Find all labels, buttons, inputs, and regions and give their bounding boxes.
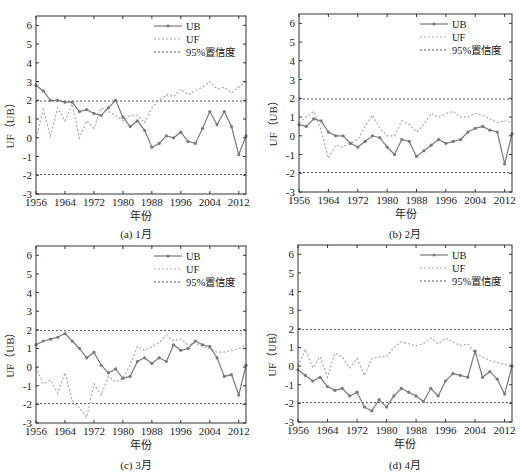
ub-marker [444, 142, 447, 145]
x-tick-label: 1972 [347, 194, 369, 206]
ub-marker [400, 387, 403, 390]
y-tick-label: 1 [27, 342, 33, 354]
ub-marker [85, 108, 88, 111]
y-tick-label: -1 [286, 149, 295, 161]
chart-panel-d: -3-2-10123456195619641972198019881996200… [266, 245, 516, 450]
y-tick-label: 4 [27, 287, 33, 299]
ub-marker [481, 376, 484, 379]
y-tick-label: -2 [286, 167, 295, 179]
uf-line [299, 111, 512, 158]
ub-marker [92, 351, 95, 354]
ub-marker [42, 89, 45, 92]
chart-panel-b: -3-2-10123456195619641972198019881996200… [267, 14, 516, 220]
x-tick-label: 2012 [494, 424, 516, 436]
ub-marker [92, 112, 95, 115]
y-tick-label: 4 [27, 57, 33, 69]
x-tick-label: 2012 [494, 194, 516, 206]
ub-marker [422, 400, 425, 403]
y-tick-label: 5 [289, 267, 295, 279]
caption-d: (d) 4月 [345, 456, 465, 472]
chart-panel-a: -3-2-10123456195619641972198019881996200… [4, 16, 250, 222]
y-tick-label: 6 [289, 248, 295, 260]
x-tick-label: 2012 [228, 196, 250, 208]
ub-marker [341, 134, 344, 137]
y-axis-label: UF（UB） [266, 326, 278, 377]
ub-marker [348, 394, 351, 397]
y-tick-label: 2 [290, 92, 296, 104]
legend-label: UB [186, 251, 201, 262]
x-tick-label: 1980 [376, 424, 399, 436]
x-tick-label: 1956 [25, 425, 48, 437]
y-tick-label: 6 [27, 19, 33, 31]
y-tick-label: 5 [27, 38, 33, 50]
ub-marker [430, 144, 433, 147]
ub-marker [150, 146, 153, 149]
ub-marker [311, 379, 314, 382]
legend-label: 95%置信度 [186, 276, 236, 288]
x-tick-label: 2004 [199, 196, 222, 208]
ub-marker [466, 130, 469, 133]
ub-marker [129, 125, 132, 128]
ub-marker [223, 375, 226, 378]
chart-panel-c: -3-2-10123456195619641972198019881996200… [4, 246, 250, 451]
ub-marker [121, 377, 124, 380]
ub-marker [194, 339, 197, 342]
ub-marker [408, 140, 411, 143]
y-tick-label: -1 [23, 151, 32, 163]
ub-marker [385, 405, 388, 408]
ub-marker [223, 110, 226, 113]
ub-marker [71, 339, 74, 342]
ub-marker [129, 375, 132, 378]
x-tick-label: 1972 [83, 196, 105, 208]
ub-marker [100, 364, 103, 367]
ub-marker [349, 142, 352, 145]
ub-marker [136, 360, 139, 363]
y-tick-label: 3 [27, 305, 33, 317]
axes-frame [36, 246, 246, 423]
y-tick-label: 6 [27, 249, 33, 261]
x-axis-label: 年份 [130, 209, 152, 222]
ub-marker [422, 149, 425, 152]
ub-marker [363, 405, 366, 408]
caption-b: (b) 2月 [345, 225, 465, 241]
y-tick-label: -2 [23, 398, 32, 410]
ub-marker [378, 136, 381, 139]
x-tick-label: 1980 [112, 196, 135, 208]
x-tick-label: 1972 [83, 425, 105, 437]
ub-marker [201, 343, 204, 346]
ub-marker [186, 140, 189, 143]
y-tick-label: 4 [289, 286, 295, 298]
y-tick-label: 2 [27, 94, 33, 106]
y-tick-label: 3 [27, 76, 33, 88]
x-tick-label: 1972 [346, 424, 368, 436]
ub-marker [237, 393, 240, 396]
y-tick-label: -2 [285, 397, 294, 409]
x-tick-label: 1964 [54, 425, 77, 437]
legend-ub-marker [166, 24, 169, 27]
axes-frame [298, 245, 512, 422]
ub-marker [78, 347, 81, 350]
ub-marker [158, 356, 161, 359]
y-tick-label: 0 [27, 132, 33, 144]
y-tick-label: 3 [290, 74, 296, 86]
ub-marker [451, 372, 454, 375]
ub-marker [414, 394, 417, 397]
y-tick-label: 5 [27, 268, 33, 280]
ub-marker [136, 119, 139, 122]
y-tick-label: 0 [27, 361, 33, 373]
ub-marker [459, 374, 462, 377]
ub-marker [186, 347, 189, 350]
legend-ub-marker [166, 254, 169, 257]
y-tick-label: 6 [290, 17, 296, 29]
y-tick-label: 0 [289, 360, 295, 372]
ub-marker [158, 142, 161, 145]
ub-marker [201, 127, 204, 130]
ub-marker [437, 138, 440, 141]
ub-marker [488, 129, 491, 132]
ub-marker [63, 101, 66, 104]
legend-label: UB [452, 250, 467, 261]
ub-marker [179, 131, 182, 134]
ub-marker [165, 134, 168, 137]
ub-line [36, 334, 246, 395]
x-axis-label: 年份 [395, 207, 417, 220]
